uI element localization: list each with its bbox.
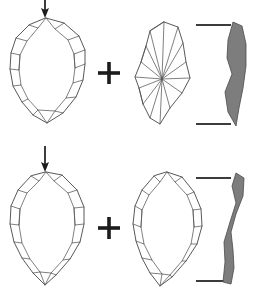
biface-outline-stage-1	[10, 18, 85, 123]
plus-vertical-bar-1	[107, 62, 111, 84]
biface-outline-stage-2	[10, 172, 84, 285]
lithic-reduction-figure: Lithic reduction sequence diagram Archae…	[0, 0, 259, 291]
biface-plan-view-stage-1	[10, 18, 85, 123]
arrow-stage-transition	[41, 146, 49, 172]
figure-canvas	[0, 0, 259, 291]
flake-face-view-stage-1	[135, 22, 190, 124]
arrow-input	[41, 0, 49, 18]
flake-face-view-stage-2	[133, 172, 202, 286]
flake-face-outline-stage-2	[133, 172, 202, 286]
section-profile-shape-stage-2	[223, 173, 244, 284]
plus-vertical-bar-2	[107, 217, 111, 239]
plus-operator-stage-2	[98, 217, 120, 239]
plus-operator-stage-1	[98, 62, 120, 84]
scale-bars-stage-1	[196, 25, 231, 124]
section-profile-stage-2	[223, 173, 244, 284]
section-profile-stage-1	[225, 22, 246, 126]
section-profile-shape-stage-1	[225, 22, 246, 126]
biface-plan-view-stage-2	[10, 172, 84, 285]
